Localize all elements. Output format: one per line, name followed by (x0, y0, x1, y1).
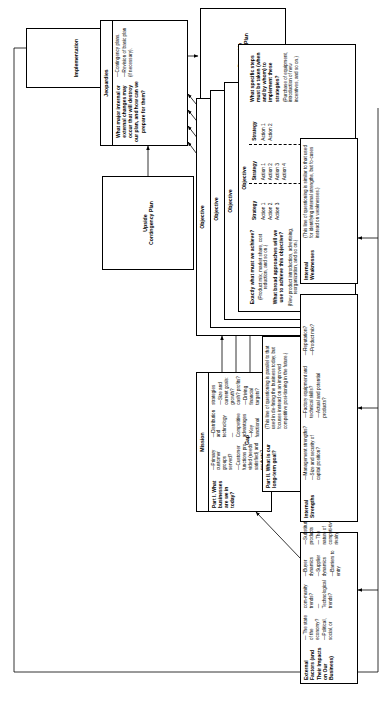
strategy-1-action-2[interactable]: Action 3 (274, 148, 281, 181)
mission-bullet-2: —Distribution and technology (211, 409, 229, 438)
objective-question-1: Exactly what must we achieve? (249, 226, 255, 308)
mission-header: Mission (197, 373, 209, 511)
implementation-label: Implementation (73, 39, 80, 77)
internal-weaknesses-header: Internal Weaknesses (303, 242, 359, 280)
external-bullet-3: —Buyer dynamics (303, 548, 315, 576)
strategy-0-action-1[interactable]: Action 2 (267, 187, 274, 220)
mission-bullet-0: —Primary customer groups served? (211, 441, 235, 470)
external-bullet-0: — The state of the economy? (303, 612, 321, 640)
strengths-bullet-3: —Actual and potential products? (316, 360, 328, 417)
objective-question-2: What broad approaches will we use to ach… (272, 226, 285, 308)
internal-strengths-box[interactable]: Internal Strengths —Management strengths… (300, 294, 358, 522)
mission-bullet-5: —Size and current goals: growth? cash? p… (218, 376, 242, 405)
gap-label-wrapper: Gap (244, 410, 260, 470)
rotated-diagram-canvas: Implementation Upside Contingency Plan D… (0, 0, 391, 708)
strengths-bullet-2: —Factory equipment and technical skills? (303, 360, 315, 417)
mission-box[interactable]: Mission Part I. What businesses are we i… (196, 372, 272, 512)
strengths-bullet-0: —Management strengths? (303, 423, 309, 480)
strategy-1-action-3[interactable]: Action 4 (281, 148, 288, 181)
jeopardies-box[interactable]: Jeopardies What major internal or extern… (100, 20, 188, 146)
diagram-canvas: Implementation Upside Contingency Plan D… (0, 0, 391, 708)
strategy-2-action-0[interactable]: Action 1 (260, 108, 267, 141)
objective-card-1-label: Objective (211, 91, 220, 327)
strengths-bullet-1: —Size and security of capital position? (310, 423, 322, 480)
objective-card-0-label: Objective (197, 99, 206, 335)
strategy-1-action-0[interactable]: Action 1 (260, 148, 267, 181)
objective-card-2-label: Objective (225, 83, 234, 319)
jeopardies-bullet-1: —Revision of basic plan (if necessary). (122, 24, 134, 77)
strengths-bullet-5: —Product mix? (310, 298, 316, 355)
gap-label: Gap (244, 410, 250, 470)
mission-bullet-6: —Driving financial targets? (243, 376, 261, 405)
upside-contingency-line2: Contingency Plan (148, 201, 155, 245)
strategy-1-label: Strategy (251, 148, 258, 181)
internal-weaknesses-note: (This line of questioning is similar to … (303, 142, 359, 238)
objective-question-1-example: (Product mix, market share, cost reducti… (258, 226, 269, 308)
strategy-1-action-1[interactable]: Action 2 (267, 148, 274, 181)
external-bullet-5: —Barriers to entry (330, 548, 342, 576)
jeopardies-bullet-0: —Contingency plans. (115, 24, 121, 77)
internal-strengths-header: Internal Strengths (303, 484, 359, 518)
external-factors-header: External Factors (and Their Impacts on O… (303, 644, 359, 680)
strategy-0-label: Strategy (251, 187, 258, 220)
internal-weaknesses-box[interactable]: Internal Weaknesses (This line of questi… (300, 138, 358, 284)
external-bullet-4: —Supplier dynamics (316, 548, 328, 576)
strengths-bullet-4: —Reputation? (303, 298, 309, 355)
objective-question-3-example: (Purchase of equipment, introduction of … (283, 48, 300, 102)
jeopardies-question: What major internal or external changes … (115, 81, 146, 142)
external-bullet-2: —Technological trends? (316, 580, 334, 608)
objective-front-header: Objective (239, 45, 249, 311)
objective-question-3: What specific steps must be taken (when … (249, 48, 280, 102)
jeopardies-header: Jeopardies (101, 21, 113, 145)
external-factors-box[interactable]: External Factors (and Their Impacts on O… (300, 532, 358, 684)
upside-contingency-plan-box[interactable]: Upside Contingency Plan (102, 176, 194, 270)
strategy-2-label: Strategy (251, 108, 258, 141)
strategy-0-action-2[interactable]: Action 3 (274, 187, 281, 220)
strategy-2-action-1[interactable]: Action 2 (267, 108, 274, 141)
strategy-0-action-0[interactable]: Action 1 (260, 187, 267, 220)
objective-question-2-example: (New product introduction, advertising, … (288, 226, 299, 308)
